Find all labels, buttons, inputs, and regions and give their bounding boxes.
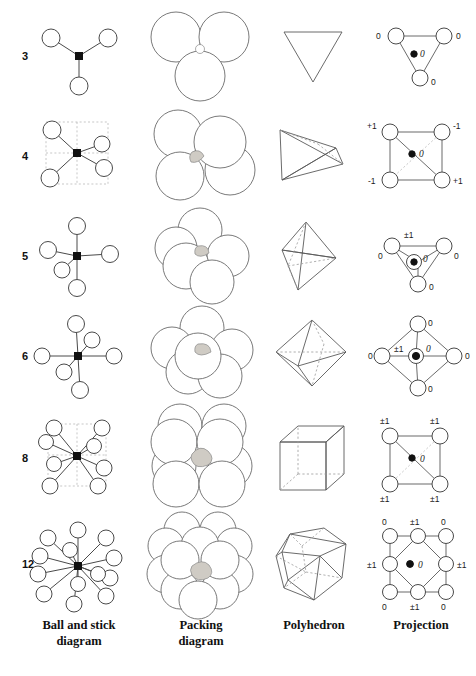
polyhedron-cuboctahedron-12 (258, 512, 368, 616)
ball-and-stick-diagram-12 (18, 512, 140, 616)
table-row: 5 (0, 204, 476, 308)
projection-center-label: 0 (418, 560, 423, 570)
column-header-projection: Projection (366, 618, 476, 634)
column-header-line2: diagram (18, 634, 140, 650)
projection-label: ±1 (367, 560, 377, 570)
projection-label: 0 (454, 251, 459, 261)
column-header-line1: Projection (366, 618, 476, 634)
projection-label: ±1 (410, 602, 420, 612)
table-row: 12 (0, 512, 476, 616)
column-header-line1: Polyhedron (258, 618, 370, 634)
projection-center-extra-label: ±1 (394, 344, 404, 354)
projection-center-extra-label: ±1 (404, 230, 414, 240)
projection-label: 0 (441, 602, 446, 612)
table-row: 4 (0, 104, 476, 208)
column-headers: Ball and stick diagram Packing diagram P… (0, 618, 476, 676)
polyhedron-tetrahedron-4 (258, 104, 368, 208)
projection-label: 0 (429, 282, 434, 292)
packing-diagram-5 (140, 204, 262, 308)
column-header-ball-and-stick: Ball and stick diagram (18, 618, 140, 649)
projection-label: +1 (453, 176, 463, 186)
packing-diagram-12 (140, 512, 262, 616)
projection-label: 0 (382, 602, 387, 612)
projection-label: 0 (382, 517, 387, 527)
ball-and-stick-diagram-6 (18, 304, 140, 408)
projection-3: 0 0 0 0 (366, 4, 476, 108)
table-row: 6 (0, 304, 476, 408)
projection-center-label: 0 (419, 149, 424, 159)
projection-12: 0 ±1 0 ±1 ±1 0 ±1 0 0 (366, 512, 476, 616)
polyhedron-cube-8 (258, 406, 368, 510)
packing-diagram-4 (140, 104, 262, 208)
projection-5: ±1 0 0 0 0 (366, 204, 476, 308)
polyhedron-trigonal-bipyramid-5 (258, 204, 368, 308)
projection-label: -1 (453, 121, 461, 131)
packing-diagram-8 (140, 406, 262, 510)
figure-sheet: 3 (0, 0, 476, 676)
projection-label: ±1 (380, 416, 390, 426)
projection-center-label: 0 (420, 454, 425, 464)
projection-8: ±1 ±1 ±1 ±1 0 (366, 406, 476, 510)
packing-diagram-6 (140, 304, 262, 408)
projection-label: 0 (465, 351, 470, 361)
projection-label: 0 (428, 318, 433, 328)
projection-label: ±1 (430, 494, 440, 504)
projection-center-label: 0 (423, 254, 428, 264)
projection-label: ±1 (457, 560, 467, 570)
projection-label: 0 (428, 384, 433, 394)
projection-6: 0 0 0 0 ±1 0 (366, 304, 476, 408)
projection-label: 0 (378, 251, 383, 261)
projection-label: 0 (368, 351, 373, 361)
polyhedron-octahedron-6 (258, 304, 368, 408)
ball-and-stick-diagram-3 (18, 4, 140, 108)
projection-label: 0 (431, 77, 436, 87)
column-header-line1: Ball and stick (18, 618, 140, 634)
projection-label: ±1 (410, 517, 420, 527)
projection-label: ±1 (430, 416, 440, 426)
projection-label: ±1 (380, 494, 390, 504)
column-header-polyhedron: Polyhedron (258, 618, 370, 634)
projection-center-label: 0 (420, 49, 425, 59)
ball-and-stick-diagram-5 (18, 204, 140, 308)
packing-diagram-3 (140, 4, 262, 108)
ball-and-stick-diagram-4 (18, 104, 140, 208)
table-row: 3 (0, 4, 476, 108)
projection-label: +1 (367, 121, 377, 131)
projection-label: -1 (368, 176, 376, 186)
ball-and-stick-diagram-8 (18, 406, 140, 510)
projection-label: 0 (441, 517, 446, 527)
projection-4: +1 -1 -1 +1 0 (366, 104, 476, 208)
column-header-line1: Packing (140, 618, 262, 634)
polyhedron-triangle-3 (258, 4, 368, 108)
projection-label: 0 (456, 31, 461, 41)
projection-center-label: 0 (426, 344, 431, 354)
column-header-line2: diagram (140, 634, 262, 650)
projection-label: 0 (376, 31, 381, 41)
table-row: 8 (0, 406, 476, 510)
column-header-packing: Packing diagram (140, 618, 262, 649)
